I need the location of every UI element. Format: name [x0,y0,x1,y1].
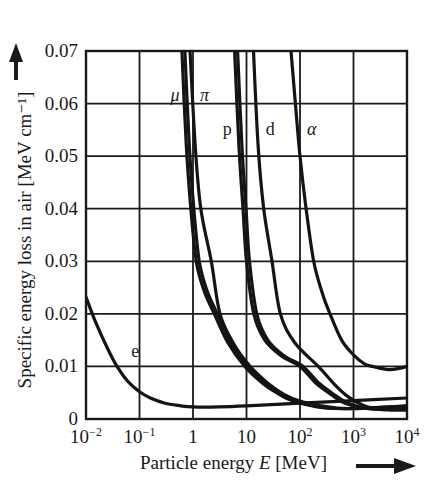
y-tick-label: 0.04 [45,198,79,219]
y-axis-title: Specific energy loss in air [MeV cm⁻¹] [14,92,35,389]
y-tick-label: 0.02 [45,303,78,324]
y-tick-label: 0.01 [45,355,78,376]
energy-loss-chart: eμπpdα 00.010.020.030.040.050.060.07 10−… [0,0,433,493]
chart: eμπpdα 00.010.020.030.040.050.060.07 10−… [0,0,433,493]
x-tick-label: 10 [237,426,256,447]
curve-labels: eμπpdα [131,85,317,362]
curve-label-e: e [131,341,139,361]
y-tick-label: 0.06 [45,93,78,114]
x-tick-label: 10−1 [124,425,156,447]
curve-label-alpha: α [307,119,317,139]
y-tick-label: 0.07 [45,40,78,61]
arrow-right-icon [356,458,416,474]
x-axis-ticks: 10−210−1110102103104 [70,425,419,447]
curve-alpha [291,51,407,370]
x-tick-label: 102 [288,425,313,447]
y-axis-ticks: 00.010.020.030.040.050.060.07 [45,40,79,429]
y-tick-label: 0.05 [45,145,78,166]
curve-p [235,51,407,410]
curve-p-secondary [238,51,410,410]
x-tick-label: 10−2 [70,425,102,447]
curve-d [254,51,408,410]
x-tick-label: 104 [395,425,420,447]
curve-pi [190,51,407,409]
x-axis-label: Particle energy E [MeV] [140,452,327,473]
curve-label-p: p [223,119,232,139]
curve-mu-secondary [185,51,410,409]
curve-label-d: d [266,119,275,139]
x-tick-label: 103 [341,425,366,447]
curve-label-mu: μ [170,85,180,105]
x-tick-label: 1 [188,426,198,447]
y-axis-label: Specific energy loss in air [MeV cm⁻¹] [14,92,35,389]
curve-label-pi: π [200,85,210,105]
y-tick-label: 0.03 [45,250,78,271]
arrow-up-icon [9,43,23,80]
